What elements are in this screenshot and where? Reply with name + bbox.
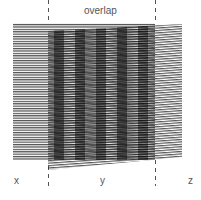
region-y-label: y — [100, 176, 105, 186]
overlap-label: overlap — [84, 6, 117, 16]
region-z-label: z — [188, 176, 193, 186]
moire-diagram — [0, 0, 201, 200]
region-x-label: x — [14, 176, 19, 186]
